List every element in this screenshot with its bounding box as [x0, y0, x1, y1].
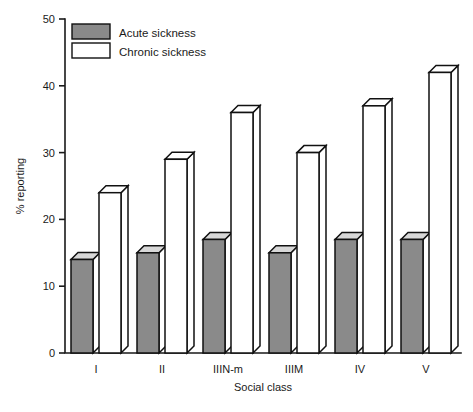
bar-chart-figure: 01020304050% reportingIIIIIIN-mIIIMIVVSo…: [0, 0, 473, 412]
bar-front-face: [203, 239, 225, 353]
bar-front-face: [71, 259, 93, 353]
bar-iiinm-chronic: [231, 106, 260, 353]
bar-front-face: [165, 159, 187, 353]
bar-front-face: [335, 239, 357, 353]
bar-ii-acute: [137, 246, 166, 353]
bar-i-chronic: [99, 186, 128, 353]
bar-iv-acute: [335, 232, 364, 353]
bar-side-face: [451, 65, 458, 353]
bar-v-acute: [401, 232, 430, 353]
legend-label-chronic: Chronic sickness: [119, 46, 206, 58]
y-axis-title: % reporting: [14, 158, 26, 214]
x-category-label-iiinm: IIIN-m: [213, 363, 243, 375]
y-tick-label-30: 30: [43, 147, 55, 159]
x-category-label-ii: II: [159, 363, 165, 375]
y-tick-label-20: 20: [43, 213, 55, 225]
bar-iv-chronic: [363, 99, 392, 353]
y-tick-label-10: 10: [43, 280, 55, 292]
chart-canvas: 01020304050% reportingIIIIIIN-mIIIMIVVSo…: [0, 0, 473, 412]
bar-front-face: [401, 239, 423, 353]
bar-front-face: [269, 253, 291, 353]
y-tick-label-40: 40: [43, 80, 55, 92]
y-tick-label-0: 0: [49, 347, 55, 359]
bar-i-acute: [71, 252, 100, 353]
bar-front-face: [363, 106, 385, 353]
x-axis-title: Social class: [234, 381, 293, 393]
bar-front-face: [99, 193, 121, 353]
bar-front-face: [137, 253, 159, 353]
x-category-label-iv: IV: [355, 363, 366, 375]
legend-label-acute: Acute sickness: [119, 27, 196, 39]
bar-side-face: [253, 106, 260, 353]
bar-side-face: [187, 152, 194, 353]
bar-side-face: [319, 146, 326, 353]
legend-swatch-chronic: [72, 43, 110, 58]
bar-front-face: [297, 153, 319, 353]
legend: Acute sicknessChronic sickness: [72, 24, 206, 58]
bar-side-face: [121, 186, 128, 353]
x-category-label-iiim: IIIM: [285, 363, 303, 375]
y-tick-label-50: 50: [43, 13, 55, 25]
bar-side-face: [385, 99, 392, 353]
bar-front-face: [231, 113, 253, 353]
x-category-label-i: I: [94, 363, 97, 375]
bar-iiim-acute: [269, 246, 298, 353]
bar-front-face: [429, 72, 451, 353]
bar-ii-chronic: [165, 152, 194, 353]
bar-iiim-chronic: [297, 146, 326, 353]
x-category-label-v: V: [422, 363, 430, 375]
bar-iiinm-acute: [203, 232, 232, 353]
bar-v-chronic: [429, 65, 458, 353]
legend-swatch-acute: [72, 24, 110, 39]
